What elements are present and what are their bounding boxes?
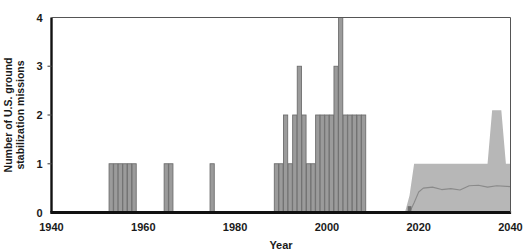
bar [109,164,113,213]
x-tick-label: 2020 [406,221,430,233]
bar [288,164,292,213]
bar [348,115,352,213]
bar [306,164,310,213]
y-tick-label: 4 [36,12,43,24]
bar [297,66,301,212]
bar [127,164,131,213]
x-tick-label: 1940 [39,221,63,233]
bar [164,164,168,213]
plot-area [109,10,510,213]
bar [339,10,343,213]
x-tick-label: 1960 [131,221,155,233]
x-tick-label: 2000 [315,221,339,233]
bar [362,115,366,213]
bar [302,115,306,213]
bar [283,115,287,213]
bar [274,164,278,213]
bar [334,66,338,212]
bar [352,115,356,213]
bar [279,164,283,213]
y-tick-label: 1 [36,158,42,170]
y-tick-label: 0 [36,207,42,219]
bar [316,115,320,213]
projection-band [405,110,511,212]
y-tick-label: 3 [36,60,42,72]
bar [357,115,361,213]
x-tick-label: 2040 [498,221,522,233]
bar [320,115,324,213]
x-tick-label: 1980 [223,221,247,233]
bar [114,164,118,213]
bar [169,164,173,213]
bar [293,115,297,213]
y-axis-title-line1: Number of U.S. ground [2,58,14,173]
bar [210,164,214,213]
bar [311,164,315,213]
bar [343,115,347,213]
y-axis-title-line2: stabilization missions [14,60,26,169]
bar [132,164,136,213]
chart-svg: 01234194019601980200020202040YearNumber … [0,0,525,251]
bar [123,164,127,213]
bar [325,115,329,213]
chart-figure: 01234194019601980200020202040YearNumber … [0,0,525,251]
bar [118,164,122,213]
bar [329,115,333,213]
y-axis-title: Number of U.S. groundstabilization missi… [2,58,26,173]
x-axis-title: Year [269,239,293,251]
bars-group [109,10,366,213]
y-tick-label: 2 [36,109,42,121]
